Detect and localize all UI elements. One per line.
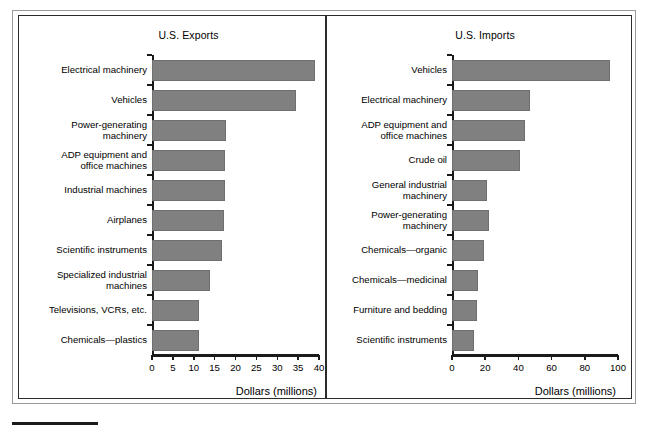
bar-track [152, 295, 319, 325]
bar-row: Power-generating machinery [26, 115, 319, 145]
y-axis-tick [447, 294, 452, 296]
bar-track [452, 115, 618, 145]
x-axis-tick-label: 10 [188, 362, 199, 373]
bar [152, 330, 199, 351]
x-axis-baseline [152, 354, 319, 356]
bar-category-label: Vehicles [332, 64, 452, 75]
bar [452, 300, 477, 321]
bar-row: Scientific instruments [26, 235, 319, 265]
bottom-rule [12, 422, 98, 425]
x-axis-tick-label: 40 [513, 362, 524, 373]
bar-track [152, 175, 319, 205]
x-axis-label-imports: Dollars (millions) [535, 385, 616, 397]
bar [452, 60, 610, 81]
y-axis-tick [447, 234, 452, 236]
bar-track [452, 325, 618, 355]
bar-track [452, 55, 618, 85]
x-axis-tick-label: 0 [149, 362, 154, 373]
bar-row: Furniture and bedding [332, 295, 618, 325]
y-axis-tick [447, 264, 452, 266]
y-axis-tick [447, 114, 452, 116]
bar-track [452, 205, 618, 235]
bar-track [152, 55, 319, 85]
bar-track [152, 205, 319, 235]
bar-category-label: Scientific instruments [26, 244, 152, 255]
x-axis-exports: 0510152025303540 [26, 355, 319, 381]
bar [452, 90, 530, 111]
bar-row: Power-generating machinery [332, 205, 618, 235]
bar-category-label: Chemicals—medicinal [332, 274, 452, 285]
bar-track [152, 145, 319, 175]
x-axis-tick-label: 0 [449, 362, 454, 373]
bar [152, 210, 224, 231]
x-axis-tick-label: 20 [480, 362, 491, 373]
bar-track [152, 325, 319, 355]
bar-row: ADP equipment and office machines [332, 115, 618, 145]
bar [452, 120, 525, 141]
x-axis-tick-label: 60 [546, 362, 557, 373]
x-axis-tick-label: 100 [610, 362, 626, 373]
chart-panel-exports: U.S. Exports Electrical machineryVehicle… [18, 15, 325, 399]
bar [152, 270, 210, 291]
bar-track [452, 265, 618, 295]
bar [452, 150, 520, 171]
bar-rows-imports: VehiclesElectrical machineryADP equipmen… [332, 55, 618, 355]
bar-track [452, 145, 618, 175]
bar [452, 330, 474, 351]
x-ticks-exports: 0510152025303540 [152, 355, 319, 381]
bar-category-label: Vehicles [26, 94, 152, 105]
bar-category-label: General industrial machinery [332, 179, 452, 202]
bar-category-label: Scientific instruments [332, 334, 452, 345]
bar-category-label: Electrical machinery [26, 64, 152, 75]
bar [152, 300, 199, 321]
y-axis-tick [447, 324, 452, 326]
bar-row: Electrical machinery [332, 85, 618, 115]
plot-area-imports: VehiclesElectrical machineryADP equipmen… [332, 55, 618, 355]
y-axis-tick [147, 294, 152, 296]
bar-category-label: Crude oil [332, 154, 452, 165]
bar-track [452, 235, 618, 265]
bar-track [152, 115, 319, 145]
bar-category-label: Chemicals—plastics [26, 334, 152, 345]
x-axis-tick-label: 40 [314, 362, 325, 373]
figure-root: U.S. Exports Electrical machineryVehicle… [0, 0, 648, 435]
y-axis-tick [147, 84, 152, 86]
bar-row: Televisions, VCRs, etc. [26, 295, 319, 325]
bar [452, 270, 478, 291]
bar-row: Airplanes [26, 205, 319, 235]
bar-row: Specialized industrial machines [26, 265, 319, 295]
x-ticks-imports: 020406080100 [452, 355, 618, 381]
bar-track [452, 295, 618, 325]
bar-track [452, 85, 618, 115]
y-axis-tick [447, 174, 452, 176]
bar-track [452, 175, 618, 205]
bar-category-label: Power-generating machinery [26, 119, 152, 142]
plot-area-exports: Electrical machineryVehiclesPower-genera… [26, 55, 319, 355]
bar-category-label: ADP equipment and office machines [26, 149, 152, 172]
x-axis-tick-label: 30 [272, 362, 283, 373]
bar-category-label: Electrical machinery [332, 94, 452, 105]
bar-row: General industrial machinery [332, 175, 618, 205]
bar-category-label: Televisions, VCRs, etc. [26, 304, 152, 315]
y-axis-tick [447, 144, 452, 146]
x-axis-tick-label: 20 [230, 362, 241, 373]
bar-row: Vehicles [26, 85, 319, 115]
bar-category-label: Airplanes [26, 214, 152, 225]
bar-row: ADP equipment and office machines [26, 145, 319, 175]
bar-track [152, 235, 319, 265]
bar-category-label: Chemicals—organic [332, 244, 452, 255]
bar-row: Crude oil [332, 145, 618, 175]
y-axis-tick [447, 54, 452, 56]
y-axis-tick [147, 234, 152, 236]
chart-title-exports: U.S. Exports [18, 29, 325, 41]
bar [452, 240, 484, 261]
bar [152, 240, 222, 261]
bar [152, 150, 225, 171]
bar [152, 120, 226, 141]
y-axis-tick [447, 84, 452, 86]
x-axis-label-exports: Dollars (millions) [236, 385, 317, 397]
x-axis-tick-label: 5 [170, 362, 175, 373]
chart-title-imports: U.S. Imports [326, 29, 632, 41]
x-axis-imports: 020406080100 [332, 355, 618, 381]
bar [152, 90, 296, 111]
